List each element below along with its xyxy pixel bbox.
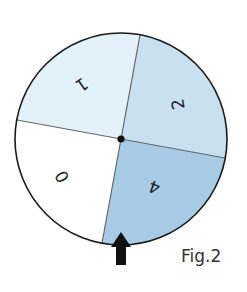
figure-caption: Fig.2	[181, 244, 221, 268]
spinner-figure: 1 2 4 0 Fig.2	[0, 0, 247, 292]
pivot-dot	[117, 135, 124, 142]
